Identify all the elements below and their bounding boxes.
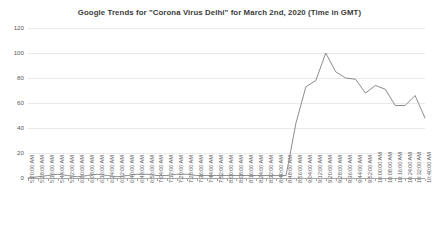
series-line-layer xyxy=(0,0,439,238)
series-line-corona-virus-delhi xyxy=(28,53,425,178)
chart-container: Google Trends for "Corona Virus Delhi" f… xyxy=(0,0,439,238)
plot-area: 020406080100120 5:20:00 AM5:28:00 AM5:36… xyxy=(0,0,439,238)
